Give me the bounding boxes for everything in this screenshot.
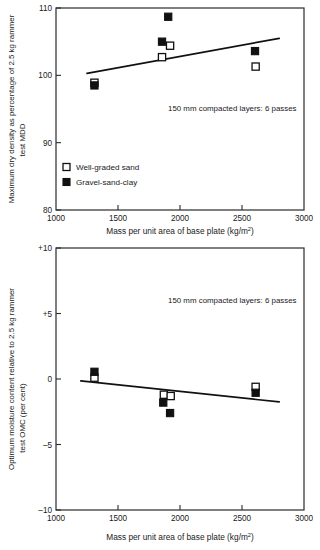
lower-y-axis-ticks bbox=[56, 248, 61, 510]
lower-x-axis-title-tail: ) bbox=[251, 532, 254, 542]
x-tick-label-top-3: 2500 bbox=[233, 214, 252, 223]
data-point-bottom-s0-1 bbox=[160, 391, 167, 398]
upper-y-tick-labels: 8090100110 bbox=[38, 4, 52, 215]
upper-legend: Well-graded sand Gravel-sand-clay bbox=[63, 163, 139, 187]
lower-y-axis-title-line2: test OMC (per cent) bbox=[18, 383, 27, 453]
lower-data-points bbox=[91, 368, 259, 416]
trend-line-segment-top bbox=[87, 38, 279, 73]
upper-x-axis-ticks bbox=[118, 205, 242, 210]
y-tick-label-bottom-1: –5 bbox=[43, 441, 53, 450]
upper-y-axis-ticks bbox=[56, 8, 61, 210]
data-point-top-s0-1 bbox=[158, 54, 165, 61]
data-point-top-s1-0 bbox=[91, 82, 98, 89]
lower-chart-svg: –10–50+5+10 10001500200025003000 150 mm … bbox=[0, 240, 320, 550]
y-tick-label-top-1: 90 bbox=[43, 139, 53, 148]
y-tick-label-top-2: 100 bbox=[38, 71, 52, 80]
upper-chart-svg: 8090100110 10001500200025003000 150 mm c… bbox=[0, 0, 320, 240]
upper-trend-line bbox=[87, 38, 279, 73]
lower-annotation: 150 mm compacted layers: 6 passes bbox=[168, 296, 297, 305]
data-point-top-s1-1 bbox=[158, 38, 165, 45]
data-point-top-s1-3 bbox=[251, 47, 258, 54]
upper-data-points bbox=[91, 13, 259, 89]
lower-chart-figure: –10–50+5+10 10001500200025003000 150 mm … bbox=[0, 240, 320, 550]
upper-y-axis-title-line1: Maximum dry density as percentage of 2.5… bbox=[7, 14, 16, 203]
data-point-bottom-s1-2 bbox=[166, 409, 173, 416]
x-tick-label-top-1: 1500 bbox=[109, 214, 128, 223]
y-tick-label-bottom-4: +10 bbox=[38, 244, 52, 253]
y-tick-label-top-3: 110 bbox=[39, 4, 52, 13]
lower-x-axis-title: Mass per unit area of base plate (kg/m2) bbox=[106, 532, 254, 542]
lower-trend-line bbox=[81, 381, 279, 402]
x-tick-label-top-0: 1000 bbox=[47, 214, 66, 223]
upper-y-axis-title-line2: test MDD bbox=[18, 123, 27, 156]
legend-label-gravel-sand-clay: Gravel-sand-clay bbox=[76, 178, 138, 187]
x-tick-label-bottom-0: 1000 bbox=[47, 514, 66, 523]
data-point-top-s0-3 bbox=[252, 63, 259, 70]
upper-x-axis-title: Mass per unit area of base plate (kg/m2) bbox=[106, 226, 254, 236]
y-tick-label-bottom-3: +5 bbox=[43, 310, 53, 319]
legend-marker-well-graded-sand bbox=[63, 164, 70, 171]
upper-chart-figure: 8090100110 10001500200025003000 150 mm c… bbox=[0, 0, 320, 240]
lower-x-axis-title-base: Mass per unit area of base plate (kg/m bbox=[106, 532, 248, 542]
data-point-top-s0-2 bbox=[166, 42, 173, 49]
y-tick-label-bottom-2: 0 bbox=[47, 375, 52, 384]
x-tick-label-top-2: 2000 bbox=[171, 214, 190, 223]
lower-y-tick-labels: –10–50+5+10 bbox=[38, 244, 52, 515]
trend-line-segment-bottom bbox=[81, 381, 279, 402]
legend-label-well-graded-sand: Well-graded sand bbox=[76, 163, 139, 172]
x-tick-label-bottom-1: 1500 bbox=[109, 514, 128, 523]
upper-annotation: 150 mm compacted layers: 6 passes bbox=[168, 104, 297, 113]
data-point-top-s1-2 bbox=[165, 13, 172, 20]
upper-x-tick-labels: 10001500200025003000 bbox=[47, 214, 314, 223]
data-point-bottom-s1-1 bbox=[160, 399, 167, 406]
x-tick-label-bottom-2: 2000 bbox=[171, 514, 190, 523]
data-point-bottom-s1-0 bbox=[91, 368, 98, 375]
x-tick-label-bottom-3: 2500 bbox=[233, 514, 252, 523]
x-tick-label-bottom-4: 3000 bbox=[295, 514, 314, 523]
lower-x-axis-ticks bbox=[118, 505, 242, 510]
upper-x-axis-title-base: Mass per unit area of base plate (kg/m bbox=[106, 226, 248, 236]
legend-marker-gravel-sand-clay bbox=[63, 179, 70, 186]
x-tick-label-top-4: 3000 bbox=[295, 214, 314, 223]
upper-x-axis-title-tail: ) bbox=[251, 226, 254, 236]
data-point-bottom-s1-3 bbox=[252, 389, 259, 396]
data-point-bottom-s0-2 bbox=[167, 392, 174, 399]
lower-y-axis-title-line1: Optimum moisture content relative to 2.5… bbox=[7, 288, 16, 470]
lower-x-tick-labels: 10001500200025003000 bbox=[47, 514, 314, 523]
